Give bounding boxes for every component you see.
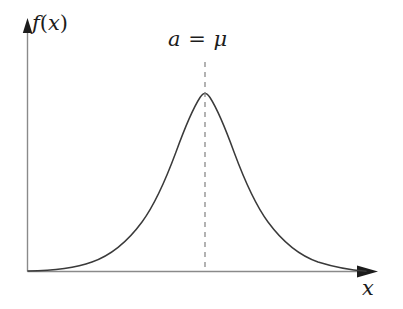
y-axis-label-variable: x <box>48 11 60 35</box>
y-axis-arrowhead-icon <box>23 18 32 33</box>
y-axis-label-close-paren: ) <box>60 11 68 35</box>
x-axis-label: x <box>362 278 374 299</box>
y-axis-label-function: f <box>32 11 40 35</box>
y-axis-label: f(x) <box>32 13 68 34</box>
mean-annotation-label: a = μ <box>168 29 228 50</box>
figure-canvas: f(x) a = μ x <box>0 0 403 309</box>
density-curve <box>28 93 366 271</box>
y-axis-label-open-paren: ( <box>40 11 48 35</box>
